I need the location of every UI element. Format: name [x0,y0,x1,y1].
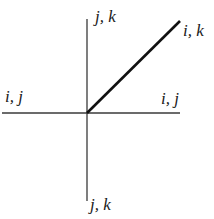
axis-diagram: j, k i, k i, j i, j j, k [0,0,214,219]
label-top: j, k [93,7,116,26]
label-bottom: j, k [88,195,111,214]
label-upper-right: i, k [183,21,204,40]
label-left: i, j [5,87,23,106]
label-right: i, j [161,89,179,108]
